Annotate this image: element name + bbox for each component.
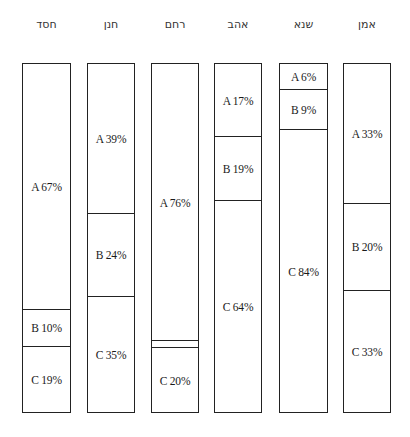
- segment-value-label: C 33%: [352, 346, 383, 358]
- segment-b: B 24%: [88, 213, 134, 296]
- segment-b: [152, 340, 198, 347]
- segment-b: B 20%: [344, 203, 390, 290]
- category-label: אהב: [214, 18, 262, 31]
- segment-a: A 76%: [152, 64, 198, 341]
- segment-c: C 20%: [152, 347, 198, 413]
- stacked-bar: A 6%B 9%C 84%: [279, 63, 328, 413]
- segment-value-label: B 20%: [352, 241, 383, 253]
- segment-value-label: C 19%: [31, 374, 62, 386]
- segment-a: A 6%: [280, 64, 327, 90]
- category-label: חנן: [87, 18, 135, 31]
- segment-value-label: C 64%: [223, 301, 254, 313]
- segment-a: A 33%: [344, 64, 390, 204]
- segment-value-label: A 67%: [31, 181, 62, 193]
- segment-value-label: B 19%: [223, 163, 254, 175]
- segment-a: A 17%: [215, 64, 261, 137]
- segment-a: A 39%: [88, 64, 134, 214]
- segment-value-label: B 10%: [31, 322, 62, 334]
- stacked-bar: A 76%C 20%: [151, 63, 199, 413]
- segment-value-label: A 17%: [223, 95, 254, 107]
- segment-value-label: A 39%: [96, 133, 127, 145]
- category-label: רחם: [151, 18, 199, 31]
- segment-b: B 9%: [280, 89, 327, 129]
- segment-value-label: A 76%: [160, 197, 191, 209]
- segment-c: C 19%: [23, 346, 70, 413]
- segment-value-label: A 33%: [352, 128, 383, 140]
- segment-b: B 10%: [23, 309, 70, 346]
- stacked-bar: A 39%B 24%C 35%: [87, 63, 135, 413]
- segment-c: C 33%: [344, 290, 390, 413]
- stacked-bar: A 67%B 10%C 19%: [22, 63, 71, 413]
- category-label: אמן: [343, 18, 391, 31]
- segment-value-label: C 35%: [96, 349, 127, 361]
- segment-value-label: C 20%: [160, 375, 191, 387]
- segment-value-label: A 6%: [291, 71, 316, 83]
- segment-a: A 67%: [23, 64, 70, 310]
- stacked-bar: A 17%B 19%C 64%: [214, 63, 262, 413]
- segment-c: C 35%: [88, 296, 134, 413]
- category-label: שנא: [279, 18, 328, 31]
- segment-c: C 64%: [215, 200, 261, 413]
- segment-c: C 84%: [280, 129, 327, 413]
- segment-b: B 19%: [215, 136, 261, 200]
- segment-value-label: B 24%: [96, 249, 127, 261]
- stacked-bar: A 33%B 20%C 33%: [343, 63, 391, 413]
- segment-value-label: C 84%: [288, 266, 319, 278]
- segment-value-label: B 9%: [291, 104, 316, 116]
- category-label: חסד: [22, 18, 71, 31]
